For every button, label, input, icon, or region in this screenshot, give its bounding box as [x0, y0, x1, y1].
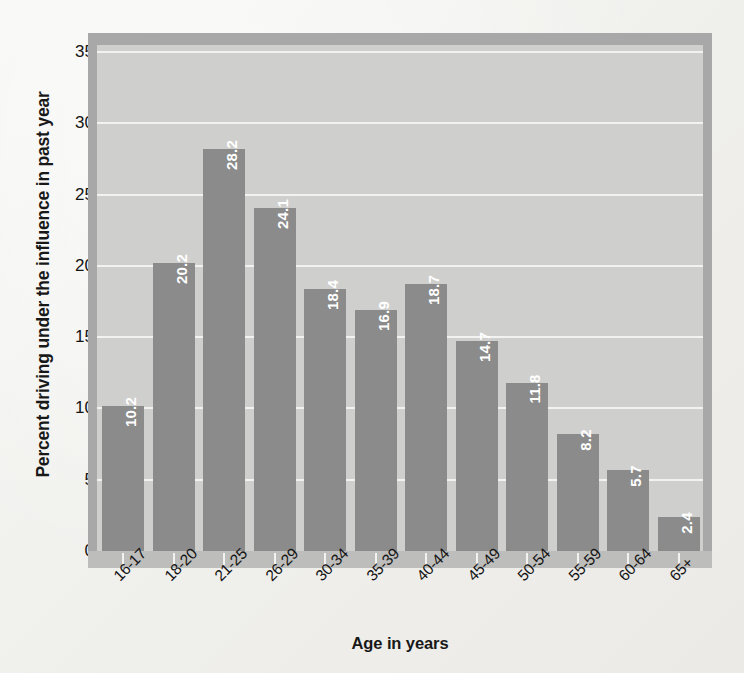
bar: 10.2 — [102, 406, 144, 551]
bar-value-label: 20.2 — [174, 254, 189, 284]
bar: 24.1 — [254, 208, 296, 552]
plot-area: 10.220.228.224.118.416.918.714.711.88.25… — [97, 45, 703, 551]
bar-value-label: 28.2 — [224, 140, 239, 170]
bar: 28.2 — [203, 149, 245, 551]
bar-value-label: 11.8 — [527, 374, 542, 403]
bar-value-label: 2.4 — [679, 512, 694, 533]
bar-value-label: 24.1 — [275, 199, 290, 229]
x-axis-title: Age in years — [88, 634, 712, 653]
bar-value-label: 18.7 — [426, 275, 441, 305]
bar: 20.2 — [153, 263, 195, 551]
bar: 11.8 — [506, 383, 548, 551]
bar-value-label: 14.7 — [477, 332, 492, 362]
bar: 18.7 — [405, 284, 447, 551]
bar-value-label: 8.2 — [578, 429, 593, 450]
gridline — [97, 122, 703, 124]
bar-value-label: 18.4 — [325, 280, 340, 310]
bar: 16.9 — [355, 310, 397, 551]
bar: 8.2 — [557, 434, 599, 551]
bar: 5.7 — [607, 470, 649, 551]
bar-value-label: 16.9 — [376, 301, 391, 331]
bar-chart: Percent driving under the influence in p… — [0, 0, 744, 673]
bar: 14.7 — [456, 341, 498, 551]
bar: 18.4 — [304, 289, 346, 551]
bar-value-label: 10.2 — [123, 397, 138, 427]
y-axis-tick-labels: 05101520253035 — [36, 0, 94, 673]
gridline — [97, 51, 703, 53]
bar-value-label: 5.7 — [628, 465, 643, 486]
bar: 2.4 — [658, 517, 700, 551]
gridline — [97, 194, 703, 196]
